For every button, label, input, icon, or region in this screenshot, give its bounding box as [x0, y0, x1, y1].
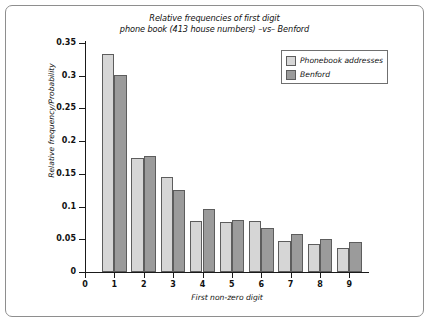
bar-7-benford — [291, 234, 303, 272]
legend-label-phonebook-addresses: Phonebook addresses — [300, 56, 383, 65]
bar-3-phonebook — [161, 177, 173, 272]
x-tick-label: 9 — [339, 280, 359, 289]
x-axis-label: First non-zero digit — [85, 293, 369, 302]
chart-legend: Phonebook addresses Benford — [281, 50, 388, 84]
bar-5-benford — [232, 220, 244, 272]
legend-swatch-icon-phonebook-addresses — [286, 56, 296, 66]
legend-item-phonebook-addresses: Phonebook addresses — [286, 54, 383, 67]
bar-9-benford — [349, 242, 361, 272]
bar-4-phonebook — [190, 221, 202, 272]
legend-label-benford: Benford — [300, 70, 330, 79]
bar-1-phonebook — [102, 54, 114, 272]
bar-9-phonebook — [337, 248, 349, 272]
x-tick-label: 4 — [193, 280, 213, 289]
x-tick-mark — [349, 272, 350, 278]
y-tick-label: 0 — [16, 267, 76, 276]
chart-title: Relative frequencies of first digit phon… — [0, 13, 429, 34]
x-tick-label: 3 — [163, 280, 183, 289]
chart-title-line-1: Relative frequencies of first digit — [0, 13, 429, 24]
x-axis-line — [85, 272, 369, 273]
x-tick-mark — [232, 272, 233, 278]
y-axis-label: Relative frequency/Probability — [47, 26, 56, 216]
bar-8-benford — [320, 239, 332, 272]
bar-7-phonebook — [278, 241, 290, 272]
x-tick-mark — [173, 272, 174, 278]
legend-swatch-icon-benford — [286, 70, 296, 80]
x-tick-mark — [203, 272, 204, 278]
x-tick-mark — [291, 272, 292, 278]
bar-8-phonebook — [308, 244, 320, 272]
x-tick-label: 2 — [134, 280, 154, 289]
bar-6-benford — [261, 228, 273, 272]
x-tick-label: 6 — [251, 280, 271, 289]
y-tick-label: 0.05 — [16, 234, 76, 243]
x-tick-label: 5 — [222, 280, 242, 289]
x-tick-mark — [261, 272, 262, 278]
chart-title-line-2: phone book (413 house numbers) –vs– Benf… — [0, 24, 429, 35]
chart-figure: Relative frequencies of first digit phon… — [0, 0, 429, 323]
x-tick-mark — [144, 272, 145, 278]
bar-1-benford — [114, 75, 126, 272]
bar-2-phonebook — [131, 158, 143, 273]
x-tick-mark — [114, 272, 115, 278]
bar-6-phonebook — [249, 221, 261, 272]
bar-4-benford — [203, 209, 215, 272]
x-tick-mark — [85, 272, 86, 278]
bar-3-benford — [173, 190, 185, 272]
bar-5-phonebook — [220, 222, 232, 272]
x-tick-label: 8 — [310, 280, 330, 289]
legend-item-benford: Benford — [286, 68, 383, 81]
x-tick-label: 1 — [104, 280, 124, 289]
x-tick-mark — [320, 272, 321, 278]
x-tick-label: 0 — [75, 280, 95, 289]
bar-2-benford — [144, 156, 156, 272]
x-tick-label: 7 — [281, 280, 301, 289]
